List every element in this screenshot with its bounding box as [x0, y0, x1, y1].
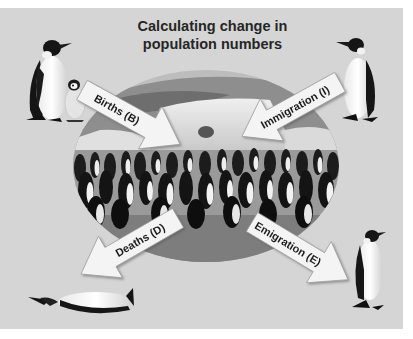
immigrant-penguin — [336, 38, 378, 122]
population-change-diagram: Births (B) Immigration (I) Deaths (D) Em… — [0, 0, 413, 339]
emigrant-penguin — [352, 230, 386, 310]
dead-penguin — [28, 288, 134, 313]
adult-penguin-with-chick — [26, 40, 85, 122]
